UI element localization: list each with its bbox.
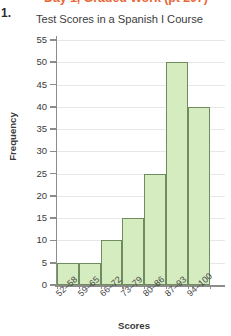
y-tick-label: 5 (22, 257, 47, 268)
y-tick-mark (50, 240, 57, 242)
histogram-bar (122, 218, 144, 285)
histogram-bar (188, 107, 210, 285)
y-tick-mark (50, 173, 57, 175)
y-tick-mark (50, 151, 57, 153)
y-tick-mark (50, 84, 57, 86)
y-tick-label: 20 (22, 190, 47, 201)
y-tick-label: 35 (22, 123, 47, 134)
y-tick-mark (50, 284, 57, 286)
chart-title: Test Scores in a Spanish I Course (36, 13, 231, 25)
y-tick-mark (50, 61, 57, 63)
y-tick-label: 50 (22, 56, 47, 67)
y-tick-label: 10 (22, 234, 47, 245)
histogram-bar (144, 174, 166, 285)
y-tick-mark (50, 106, 57, 108)
y-tick-label: 0 (22, 279, 47, 290)
y-tick-label: 55 (22, 34, 47, 45)
page-header-strip: Day 1, Graded Work (pt 207) (0, 0, 231, 7)
y-tick-label: 30 (22, 145, 47, 156)
x-axis-title: Scores (57, 320, 211, 331)
problem-number: 1. (1, 6, 11, 20)
y-axis-spine (56, 36, 58, 287)
y-tick-mark (50, 217, 57, 219)
y-tick-label: 45 (22, 79, 47, 90)
y-tick-mark (50, 128, 57, 130)
y-axis-title: Frequency (7, 102, 18, 172)
histogram-figure: Day 1, Graded Work (pt 207) 1. Test Scor… (0, 0, 231, 336)
y-tick-label: 25 (22, 168, 47, 179)
gridline (57, 62, 225, 63)
x-tick-mark (210, 285, 211, 289)
y-tick-mark (50, 195, 57, 197)
gridline (57, 85, 225, 86)
page-header-text: Day 1, Graded Work (pt 207) (44, 0, 208, 5)
y-tick-label: 15 (22, 212, 47, 223)
y-tick-label: 40 (22, 101, 47, 112)
gridline (57, 40, 225, 41)
histogram-bar (166, 62, 188, 285)
y-tick-mark (50, 39, 57, 41)
y-tick-mark (50, 262, 57, 264)
